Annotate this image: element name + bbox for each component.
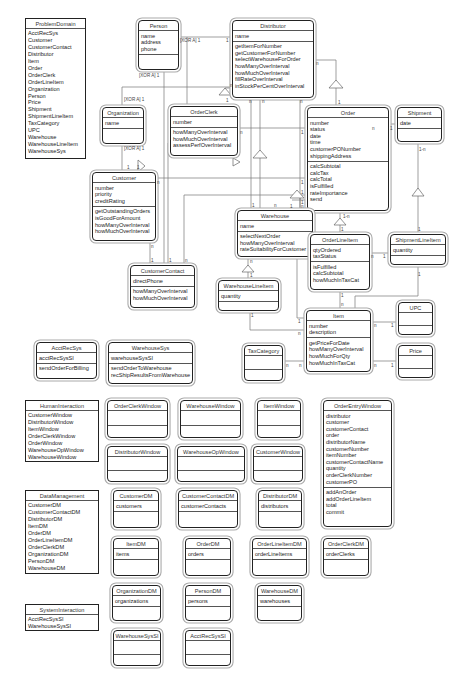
class-attributes: number priority creditRating [93,183,155,207]
class-name: AcctRecSys [37,343,96,353]
class-order-line-item-dm[interactable]: OrderLineItemDM orderLineItems [252,538,307,576]
multiplicity-1: 1 [338,100,341,105]
service: getCustomerForNumber [235,50,311,57]
package-data-management[interactable]: DataManagement CustomerDM CustomerContac… [25,490,99,574]
package-items: AcctRecSysSI WarehouseSysSI [26,615,98,632]
package-item: OrganizationDM [28,551,96,558]
class-warehouse-window[interactable]: WarehouseWindow [180,400,241,438]
multiplicity-n: n [301,204,304,209]
class-order-dm[interactable]: OrderDM orders [185,538,231,576]
package-item: ItemDM [28,523,96,530]
class-shipment[interactable]: Shipment date [397,107,442,142]
multiplicity-n: n [286,363,289,368]
package-item: CustomerContactDM [28,509,96,516]
multiplicity-1: 1 [226,38,229,43]
class-attributes: number [171,117,237,128]
class-person[interactable]: Person name address phone [138,20,179,70]
class-item[interactable]: Item number description getPriceForDate … [306,310,371,372]
class-order-clerk-window[interactable]: OrderClerkWindow [107,400,168,438]
multiplicity-n: n [372,126,375,131]
class-order-line-item[interactable]: OrderLineItem qtyOrdered taxStatus isFul… [310,234,370,290]
package-item: OrderWindow [28,440,96,447]
class-warehouse-sys[interactable]: WarehouseSys warehouseSysSI sendOrderToW… [108,342,193,384]
class-acct-rec-sys[interactable]: AcctRecSys acctRecSysSI sendOrderForBill… [36,342,97,379]
class-name: UPC [399,303,432,313]
class-name: OrderClerkWindow [108,401,167,411]
attribute: date [310,133,386,140]
class-name: WarehouseDM [258,586,301,596]
attribute: quantity [221,293,276,300]
class-organization-dm[interactable]: OrganizationDM organizations [112,585,161,621]
multiplicity-1: 1 [391,323,394,328]
class-attributes: customers [114,501,158,512]
class-item-dm[interactable]: ItemDM items [113,538,159,576]
class-warehouse-line-item[interactable]: WarehouseLineItem quantity [218,280,279,311]
class-attributes [258,411,300,426]
service: total [326,502,389,509]
class-acct-rec-sys-si[interactable]: AcctRecSysSI [185,630,231,666]
class-price[interactable]: Price [398,345,433,378]
attribute: warehouses [260,598,299,605]
class-name: WarehouseOpWindow [178,447,244,457]
class-tax-category[interactable]: TaxCategory [244,345,283,381]
package-title: DataManagement [26,491,98,501]
class-warehouse-op-window[interactable]: WarehouseOpWindow [177,446,245,482]
class-distributor-dm[interactable]: DistributorDM distributors [258,490,302,528]
service: howMuchOverInterval [173,136,235,143]
class-name: WarehouseLineItem [219,281,278,291]
attribute: quantity [326,465,389,472]
class-shipment-line-item[interactable]: ShipmentLineItem quantity [390,234,446,265]
class-distributor-window[interactable]: DistributorWindow [107,446,168,482]
class-customer-contact[interactable]: CustomerContact directPhone howManyOverI… [130,265,195,308]
multiplicity-n: n [374,323,377,328]
class-customer[interactable]: Customer number priority creditRating ge… [92,172,156,241]
class-name: DistributorDM [259,491,301,501]
multiplicity-1: 1 [341,293,344,298]
class-name: OrderClerk [171,107,237,117]
multiplicity-1: 1 [290,204,293,209]
class-warehouse-sys-si[interactable]: WarehouseSysSI [113,630,161,666]
class-attributes: orders [186,549,230,560]
attribute: orderLineItems [255,551,304,558]
class-services: calcSubtotal calcTax calcTotal isFulfill… [308,162,388,205]
class-person-dm[interactable]: PersonDM persons [185,585,231,621]
class-services [186,655,230,663]
package-title: HumanInteraction [26,401,98,411]
multiplicity-1: 1 [252,203,255,208]
service: calcTax [310,170,386,177]
class-services [254,471,302,479]
class-item-window[interactable]: ItemWindow [257,400,301,438]
class-attributes: orderClerks [324,549,368,560]
class-name: Item [307,311,370,321]
attribute: customers [116,503,156,510]
class-name: OrderClerkDM [324,539,368,549]
class-warehouse[interactable]: Warehouse name selectNextOrder howManyOv… [237,210,313,257]
package-human-interaction[interactable]: HumanInteraction CustomerWindow Distribu… [25,400,99,462]
class-attributes [108,457,167,471]
class-services: sendOrderToWarehouse recShipResultsFromW… [109,364,192,380]
package-item: OrderLineItemDM [28,537,96,544]
package-item: Customer [28,37,83,44]
class-customer-dm[interactable]: CustomerDM customers [113,490,159,528]
package-system-interaction[interactable]: SystemInteraction AcctRecSysSI Warehouse… [25,604,99,631]
class-customer-contact-dm[interactable]: CustomerContactDM customerContacts [178,490,238,528]
service: howManyOverInterval [240,240,310,247]
class-order-entry-window[interactable]: OrderEntryWindow distributor customer cu… [323,400,392,527]
class-organization[interactable]: Organization name [102,107,144,144]
attribute: customerPONumber [310,146,386,153]
class-order-clerk[interactable]: OrderClerk number howManyOverInterval ho… [170,106,238,156]
class-services [245,370,282,378]
package-problem-domain[interactable]: ProblemDomain AcctRecSys Customer Custom… [25,18,86,159]
service: howManyOverInterval [235,63,311,70]
class-order[interactable]: Order number status date time customerPO… [307,107,389,211]
multiplicity-1: 1 [127,165,130,170]
class-services [253,560,306,568]
class-order-clerk-dm[interactable]: OrderClerkDM orderClerks [323,538,369,576]
class-warehouse-dm[interactable]: WarehouseDM warehouses [257,585,302,621]
class-upc[interactable]: UPC [398,302,433,335]
multiplicity-n: n [374,363,377,368]
attribute: organizations [115,598,158,605]
class-customer-window[interactable]: CustomerWindow [253,446,303,482]
class-distributor[interactable]: Distributor name getItemForNumber getCus… [232,20,314,98]
class-name: Shipment [398,108,441,118]
